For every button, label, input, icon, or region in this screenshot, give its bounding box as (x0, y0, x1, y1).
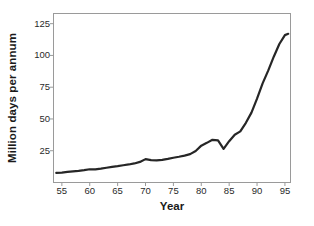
x-tick-label: 90 (247, 186, 267, 196)
chart-container: Million days per annum 255075100125 Year… (0, 0, 314, 226)
x-tick-label: 80 (191, 186, 211, 196)
x-tick-label: 70 (136, 186, 156, 196)
x-tick-label: 60 (80, 186, 100, 196)
x-tick-label: 75 (163, 186, 183, 196)
x-tick-label: 55 (52, 186, 72, 196)
x-tick-label: 85 (219, 186, 239, 196)
x-tick-label: 95 (275, 186, 295, 196)
x-tick-label: 65 (108, 186, 128, 196)
